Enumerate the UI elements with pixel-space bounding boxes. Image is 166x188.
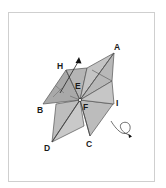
label-h: H (57, 61, 63, 71)
label-e: E (75, 81, 81, 91)
center-point (78, 98, 81, 101)
label-d: D (44, 143, 50, 153)
label-b: B (37, 105, 43, 115)
rotation-arrow-icon (111, 121, 131, 136)
label-a: A (114, 42, 120, 52)
label-c: C (86, 139, 92, 149)
fold-diagram: A H E F B I C D (0, 0, 166, 188)
rotation-arrow-head-icon (129, 134, 133, 138)
label-i: I (116, 98, 118, 108)
arrow-head-icon (76, 57, 82, 64)
label-f: F (83, 102, 88, 112)
